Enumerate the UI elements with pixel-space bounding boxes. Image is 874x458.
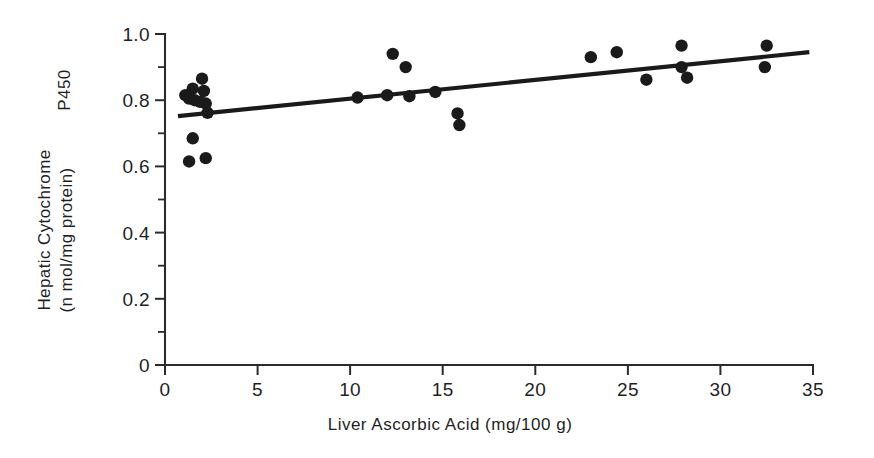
data-point <box>187 132 199 144</box>
data-point <box>761 39 773 51</box>
y-tick-label-2: 0.4 <box>122 223 150 244</box>
y-axis-title-superscript: P450 <box>55 69 74 110</box>
y-axis-title-line2: (n mol/mg protein) <box>57 167 76 312</box>
data-point <box>198 85 210 97</box>
data-point <box>200 152 212 164</box>
data-point <box>611 46 623 58</box>
data-point <box>187 82 199 94</box>
x-tick-label-3: 15 <box>432 379 454 400</box>
data-point <box>451 107 463 119</box>
data-point <box>585 51 597 63</box>
x-tick-label-0: 0 <box>160 379 171 400</box>
y-tick-label-5: 1.0 <box>122 24 150 45</box>
chart-canvas: 0 0.2 0.4 0.6 0.8 1.0 0 5 10 15 20 25 30… <box>0 0 874 458</box>
data-point <box>387 48 399 60</box>
x-tick-label-1: 5 <box>252 379 263 400</box>
y-axis-title-line1: Hepatic Cytochrome <box>35 149 54 310</box>
y-tick-label-4: 0.8 <box>122 90 150 111</box>
y-tick-label-0: 0 <box>139 355 150 376</box>
regression-fit-line <box>178 52 809 116</box>
data-point <box>453 119 465 131</box>
x-tick-label-2: 10 <box>339 379 361 400</box>
data-point <box>640 73 652 85</box>
data-point <box>675 39 687 51</box>
x-tick-label-4: 20 <box>524 379 546 400</box>
y-tick-label-3: 0.6 <box>122 156 150 177</box>
scatter-plot-figure: 0 0.2 0.4 0.6 0.8 1.0 0 5 10 15 20 25 30… <box>0 0 874 458</box>
data-point <box>681 71 693 83</box>
x-axis-ticks <box>165 365 813 375</box>
data-point <box>759 61 771 73</box>
x-axis-title: Liver Ascorbic Acid (mg/100 g) <box>328 415 573 434</box>
x-tick-label-6: 30 <box>709 379 731 400</box>
x-tick-label-7: 35 <box>802 379 824 400</box>
data-point <box>399 61 411 73</box>
y-tick-label-1: 0.2 <box>122 289 150 310</box>
data-series-layer <box>179 39 773 167</box>
data-point <box>183 155 195 167</box>
x-tick-label-5: 25 <box>617 379 639 400</box>
data-point <box>196 72 208 84</box>
